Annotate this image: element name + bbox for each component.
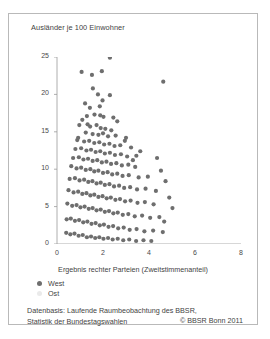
data-point (170, 206, 174, 210)
data-point (122, 225, 126, 229)
legend-label-ost: Ost (48, 289, 59, 298)
y-tick-label: 5 (31, 202, 49, 209)
data-point (98, 223, 102, 227)
data-point (157, 215, 161, 219)
data-point (107, 142, 111, 146)
legend-dot-ost-icon (37, 291, 42, 296)
data-point (89, 148, 93, 152)
data-point (84, 168, 88, 172)
data-point (167, 196, 171, 200)
data-point (116, 237, 120, 241)
data-point (143, 187, 147, 191)
data-point (90, 73, 94, 77)
data-point (100, 69, 104, 73)
data-point (120, 174, 124, 178)
data-point (79, 146, 83, 150)
data-point (88, 106, 92, 110)
data-point (129, 145, 133, 149)
data-point (112, 144, 116, 148)
copyright-note: © BBSR Bonn 2011 (180, 316, 243, 325)
data-point (102, 222, 106, 226)
data-point (78, 205, 82, 209)
legend-label-west: West (48, 279, 64, 288)
data-point (118, 197, 122, 201)
data-point (111, 237, 115, 241)
data-point (134, 227, 138, 231)
data-point (95, 158, 99, 162)
data-point (94, 181, 98, 185)
legend-item-west: West (37, 278, 64, 288)
data-point (94, 208, 98, 212)
data-point (89, 234, 93, 238)
scatter-plot-area: 0510152025 02468 (49, 57, 241, 244)
data-point (122, 186, 126, 190)
data-point (133, 214, 137, 218)
data-point (107, 182, 111, 186)
data-point (148, 216, 152, 220)
data-point (114, 133, 118, 137)
data-point (128, 228, 132, 232)
data-point (115, 119, 119, 123)
data-point (92, 193, 96, 197)
data-point (84, 130, 88, 134)
data-point (118, 143, 122, 147)
data-point (146, 175, 150, 179)
data-point (73, 219, 77, 223)
data-point (159, 169, 163, 173)
data-point (163, 179, 167, 183)
data-point (80, 70, 84, 74)
y-axis-title: Ausländer je 100 Einwohner (31, 23, 125, 32)
data-point (89, 222, 93, 226)
y-tick-label: 20 (31, 89, 49, 96)
data-point (126, 163, 130, 167)
data-point (84, 148, 88, 152)
data-point (140, 213, 144, 217)
data-point (76, 190, 80, 194)
data-point (108, 151, 112, 155)
data-point (74, 203, 78, 207)
data-point (100, 98, 104, 102)
data-point (104, 160, 108, 164)
data-points-group (64, 57, 174, 243)
y-tick-label: 0 (31, 239, 49, 246)
data-point (99, 181, 103, 185)
data-point (82, 139, 86, 143)
data-point (90, 179, 94, 183)
data-point (125, 154, 129, 158)
scatter-svg (49, 57, 241, 244)
data-point (106, 134, 110, 138)
data-point (70, 204, 74, 208)
data-point (119, 152, 123, 156)
data-point (161, 80, 165, 84)
data-point (103, 151, 107, 155)
legend-dot-west-icon (37, 281, 42, 286)
data-point (106, 236, 110, 240)
data-point (85, 122, 89, 126)
data-point (134, 239, 138, 243)
data-point (81, 157, 85, 161)
data-point (97, 235, 101, 239)
data-point (155, 156, 159, 160)
data-point (86, 157, 90, 161)
data-point (126, 212, 130, 216)
data-point (109, 128, 113, 132)
data-point (134, 154, 138, 158)
data-point (91, 86, 95, 90)
data-point (79, 166, 83, 170)
data-point (103, 127, 107, 131)
data-point (101, 131, 105, 135)
data-point (115, 172, 119, 176)
data-point (96, 92, 100, 96)
data-point (82, 178, 86, 182)
data-point (138, 149, 142, 153)
data-point (91, 206, 95, 210)
data-point (92, 113, 96, 117)
data-point (99, 126, 103, 130)
data-point (103, 210, 107, 214)
data-point (162, 219, 166, 223)
y-tick-marks (54, 57, 57, 244)
data-point (117, 184, 121, 188)
data-point (77, 155, 81, 159)
data-point (113, 153, 117, 157)
data-point (133, 165, 137, 169)
